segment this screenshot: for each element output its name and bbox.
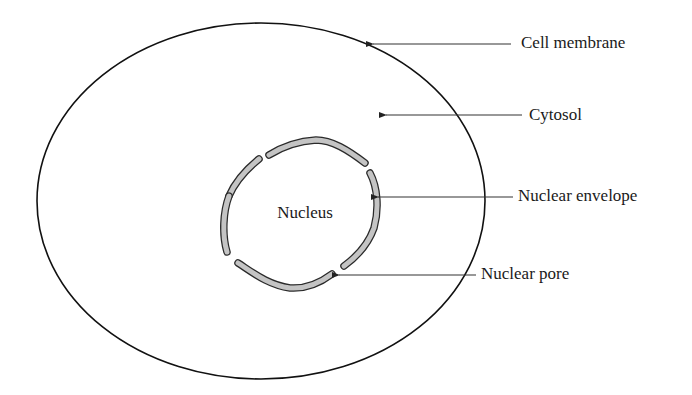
cytosol-label: Cytosol	[529, 105, 582, 124]
cell-diagram: Nucleus Cell membrane Cytosol Nuclear en…	[0, 0, 692, 395]
nuclear-pore-label: Nuclear pore	[481, 264, 569, 283]
nucleus-label: Nucleus	[277, 203, 333, 222]
cell-membrane-outline	[37, 23, 485, 379]
nuclear-envelope-label: Nuclear envelope	[518, 186, 637, 205]
cell-membrane-label: Cell membrane	[521, 33, 625, 52]
